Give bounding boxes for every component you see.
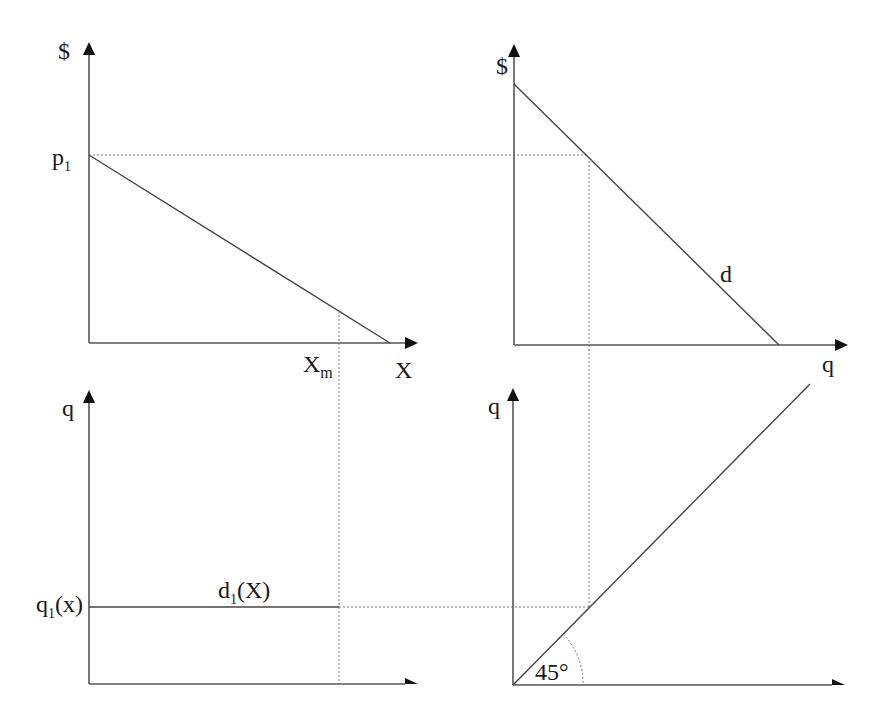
four-quadrant-diagram: $ p1 Xm X $ d q q q1(x) d1(X) q 4 [0,0,879,723]
panel-top-right: $ d q [496,44,848,607]
q1x-label: q1(x) [36,591,83,621]
arrow-right-icon [835,339,848,351]
price-line [89,155,390,343]
y-axis-label: q [62,395,74,421]
panel-bottom-left: q q1(x) d1(X) [36,390,589,684]
x-axis-label: X [395,357,412,383]
arrow-up-icon [507,388,519,401]
demand-curve-label: d [720,261,732,287]
y-axis-label: $ [496,53,508,79]
xm-label: Xm [303,351,333,381]
x-axis-label: q [822,351,834,377]
panel-bottom-right: q 45° [488,384,845,685]
y-axis-label: q [488,393,500,419]
arrow-up-icon [83,42,95,55]
demand-curve-d [514,84,779,345]
arrow-up-icon [508,44,520,57]
angle-label: 45° [535,659,569,685]
p1-label: p1 [52,144,71,174]
y-axis-label: $ [58,38,70,64]
45-degree-line [513,384,810,685]
arrow-right-icon [405,337,418,349]
arrow-right-icon [832,679,845,685]
panel-top-left: $ p1 Xm X [52,38,589,683]
d1X-label: d1(X) [218,577,270,607]
arrow-up-icon [83,390,95,403]
arrow-right-icon [405,678,418,684]
